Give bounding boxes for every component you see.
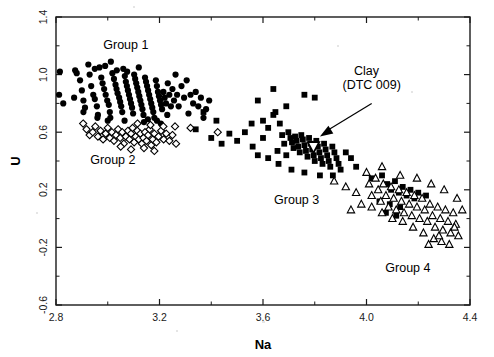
data-point bbox=[85, 61, 91, 67]
series-group-2 bbox=[80, 120, 222, 155]
data-point bbox=[283, 152, 289, 158]
data-point bbox=[219, 141, 225, 147]
data-point bbox=[332, 149, 338, 155]
y-tick-label: 1.0 bbox=[37, 67, 49, 82]
x-axis-title: Na bbox=[255, 337, 272, 352]
data-point bbox=[193, 126, 199, 132]
data-point bbox=[265, 125, 271, 131]
data-point bbox=[265, 155, 271, 161]
data-point bbox=[184, 77, 190, 83]
data-point bbox=[408, 212, 415, 219]
scatter-plot-svg: 2.83.23.64.04.41.41.00.60.2-0.2-0.6NaUGr… bbox=[0, 0, 494, 357]
clay-label-line1: Clay bbox=[354, 64, 380, 78]
data-point bbox=[358, 200, 365, 207]
data-point bbox=[323, 147, 329, 153]
data-point bbox=[260, 118, 266, 124]
y-axis-title: U bbox=[8, 156, 23, 165]
data-point bbox=[106, 102, 112, 108]
data-point bbox=[352, 189, 359, 196]
data-point bbox=[326, 158, 332, 164]
data-point bbox=[378, 163, 385, 170]
data-point bbox=[169, 86, 175, 92]
data-point bbox=[392, 178, 398, 184]
data-point bbox=[124, 69, 130, 75]
data-point bbox=[379, 173, 385, 179]
data-point bbox=[92, 66, 98, 72]
data-point bbox=[178, 83, 184, 89]
data-point bbox=[255, 98, 261, 104]
data-point bbox=[275, 148, 281, 154]
data-point bbox=[285, 129, 291, 135]
group-4-label: Group 4 bbox=[385, 261, 430, 275]
data-point bbox=[416, 215, 423, 222]
data-point bbox=[446, 241, 453, 248]
data-point bbox=[171, 97, 177, 103]
data-point bbox=[214, 118, 220, 124]
y-tick-label: 0.2 bbox=[37, 182, 49, 197]
data-point bbox=[164, 112, 170, 118]
scan-speckle bbox=[262, 321, 265, 323]
data-point bbox=[353, 164, 359, 170]
data-point bbox=[60, 100, 66, 106]
data-point bbox=[348, 155, 354, 161]
data-point bbox=[226, 131, 232, 137]
scan-speckle bbox=[337, 45, 339, 47]
data-point bbox=[324, 152, 330, 158]
data-point bbox=[277, 121, 283, 127]
group-3-label: Group 3 bbox=[274, 193, 319, 207]
data-point bbox=[312, 95, 318, 101]
data-point bbox=[172, 72, 178, 78]
data-point bbox=[56, 92, 62, 98]
data-point bbox=[166, 92, 172, 98]
scan-speckle bbox=[133, 6, 135, 8]
series-group-1 bbox=[56, 59, 212, 127]
data-point bbox=[94, 115, 100, 121]
x-tick-label: 3.2 bbox=[152, 311, 167, 323]
data-point bbox=[176, 103, 182, 109]
chart-figure: 2.83.23.64.04.41.41.00.60.2-0.2-0.6NaUGr… bbox=[0, 0, 494, 357]
data-point bbox=[453, 194, 460, 201]
data-point bbox=[200, 115, 206, 121]
data-point bbox=[99, 80, 105, 86]
data-point bbox=[289, 167, 295, 173]
data-point bbox=[459, 206, 466, 213]
data-point bbox=[302, 92, 308, 98]
data-point bbox=[318, 155, 324, 161]
data-point bbox=[87, 72, 93, 78]
data-point bbox=[118, 103, 124, 109]
data-point bbox=[260, 135, 266, 141]
data-point bbox=[136, 64, 142, 70]
data-point bbox=[103, 92, 109, 98]
data-point bbox=[71, 95, 77, 101]
data-point bbox=[198, 95, 204, 101]
data-point bbox=[303, 148, 309, 154]
data-point bbox=[206, 97, 212, 103]
data-point bbox=[74, 70, 80, 76]
data-point bbox=[434, 203, 441, 210]
data-point bbox=[208, 135, 214, 141]
data-point bbox=[329, 144, 335, 150]
data-point bbox=[108, 59, 114, 65]
data-point bbox=[159, 106, 165, 112]
data-point bbox=[98, 74, 104, 80]
data-point bbox=[195, 103, 201, 109]
data-point bbox=[102, 63, 108, 69]
clay-arrow-shaft bbox=[329, 103, 372, 129]
data-point bbox=[334, 155, 340, 161]
clay-label-line2: (DTC 009) bbox=[343, 78, 401, 92]
data-point bbox=[317, 149, 323, 155]
data-point bbox=[429, 212, 436, 219]
data-point bbox=[450, 209, 457, 216]
data-point bbox=[279, 132, 285, 138]
data-point bbox=[396, 171, 403, 178]
data-point bbox=[302, 142, 308, 148]
data-point bbox=[249, 121, 255, 127]
data-point bbox=[295, 144, 301, 150]
data-point bbox=[442, 206, 449, 213]
data-point bbox=[363, 169, 370, 176]
data-point bbox=[88, 83, 94, 89]
data-point bbox=[336, 161, 342, 167]
data-point bbox=[343, 149, 349, 155]
x-tick-label: 4.0 bbox=[359, 311, 374, 323]
data-point bbox=[306, 135, 312, 141]
